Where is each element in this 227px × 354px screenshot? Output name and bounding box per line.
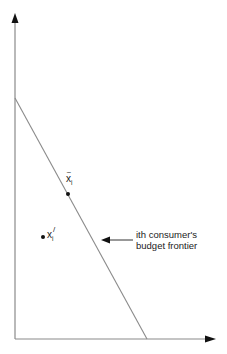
budget-frontier-diagram: xi ~ xi / ith consumer's budget frontier bbox=[0, 0, 227, 354]
tilde-accent: ~ bbox=[67, 168, 72, 177]
point-x-prime-i-dot bbox=[41, 235, 45, 239]
annotation-line-2: budget frontier bbox=[136, 240, 197, 251]
budget-frontier-line bbox=[15, 98, 147, 339]
y-axis-arrowhead-icon bbox=[12, 13, 19, 23]
annotation-line-1: ith consumer's bbox=[136, 229, 197, 240]
annotation-text: ith consumer's budget frontier bbox=[136, 229, 197, 251]
y-axis bbox=[12, 13, 19, 339]
prime-mark: / bbox=[53, 225, 56, 234]
point-x-tilde-i-dot bbox=[66, 192, 70, 196]
annotation-arrow bbox=[101, 237, 133, 244]
point-x-prime-i: xi / bbox=[41, 225, 56, 242]
x-axis-arrowhead-icon bbox=[205, 336, 216, 343]
annotation-arrowhead-icon bbox=[101, 237, 110, 244]
x-axis bbox=[15, 336, 216, 343]
